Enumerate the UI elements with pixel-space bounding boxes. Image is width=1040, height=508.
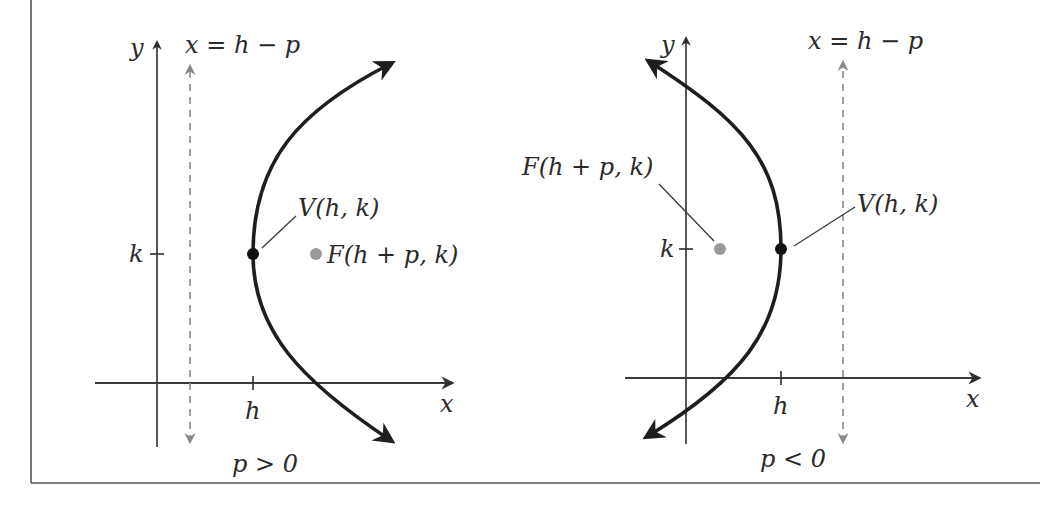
condition-label: p > 0 — [232, 450, 298, 478]
vertex-point — [775, 243, 787, 255]
vertex-point — [247, 248, 259, 260]
figure-frame — [31, 0, 1040, 483]
y-axis-label: y — [129, 34, 144, 62]
parabola-curve-lower — [648, 249, 781, 436]
k-tick-label: k — [660, 235, 675, 263]
focus-label: F(h + p, k) — [521, 153, 653, 181]
parabola-figure: y x h k x = h − p V(h, k) F(h + p, k) p … — [0, 0, 1040, 508]
vertex-label: V(h, k) — [298, 194, 379, 222]
focus-label: F(h + p, k) — [326, 241, 458, 269]
x-axis-label: x — [440, 390, 454, 418]
parabola-curve — [650, 62, 781, 249]
parabola-curve-lower — [253, 254, 390, 440]
vertex-leader-line — [262, 216, 296, 248]
vertex-label: V(h, k) — [857, 190, 938, 218]
condition-label: p < 0 — [760, 445, 826, 473]
k-tick-label: k — [129, 240, 144, 268]
h-tick-label: h — [245, 397, 260, 425]
directrix-label: x = h − p — [808, 27, 923, 55]
h-tick-label: h — [773, 392, 788, 420]
vertex-leader-line — [794, 207, 855, 246]
focus-point — [310, 248, 322, 260]
focus-point — [714, 243, 726, 255]
parabola-curve — [253, 64, 390, 254]
x-axis-label: x — [966, 385, 980, 413]
directrix-label: x = h − p — [185, 31, 300, 59]
panel-left: y x h k x = h − p V(h, k) F(h + p, k) p … — [95, 31, 458, 478]
y-axis-label: y — [660, 31, 675, 59]
panel-right: y x h k x = h − p V(h, k) F(h + p, k) p … — [521, 27, 980, 473]
